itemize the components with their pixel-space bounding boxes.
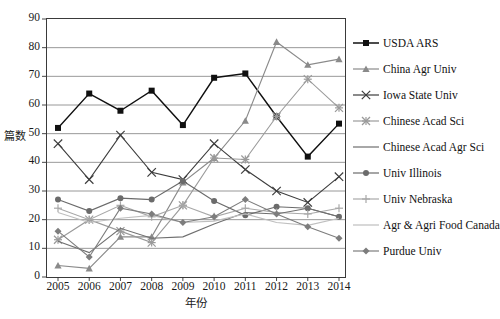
- legend-item-usda-ars[interactable]: USDA ARS: [352, 30, 484, 56]
- data-point-marker: [180, 178, 186, 184]
- legend-item-chinese-acad-sci[interactable]: Chinese Acad Sci: [352, 108, 484, 134]
- x-tick-2014: 2014: [319, 280, 359, 292]
- data-point-marker: [273, 210, 280, 217]
- data-point-marker: [335, 56, 342, 63]
- data-point-marker: [273, 112, 281, 120]
- data-point-marker: [148, 239, 156, 247]
- data-point-marker: [211, 198, 217, 204]
- data-point-marker: [210, 140, 218, 148]
- legend-item-iowa-state-univ[interactable]: Iowa State Univ: [352, 82, 484, 108]
- data-point-marker: [304, 75, 312, 83]
- data-point-marker: [55, 197, 61, 203]
- legend-label: Purdue Univ: [380, 245, 441, 257]
- series-china-agr-univ: [54, 38, 342, 271]
- data-point-marker: [180, 122, 186, 128]
- data-point-marker: [86, 208, 92, 214]
- data-point-marker: [211, 213, 218, 220]
- series-iowa-state-univ: [54, 131, 343, 207]
- data-point-marker: [210, 154, 218, 162]
- data-point-marker: [273, 38, 280, 45]
- legend-item-univ-illinois[interactable]: Univ Illinois: [352, 160, 484, 186]
- legend-marker-icon: [352, 218, 380, 232]
- legend-item-china-agr-univ[interactable]: China Agr Univ: [352, 56, 484, 82]
- x-axis-title: 年份: [156, 294, 236, 310]
- data-point-marker: [85, 175, 93, 183]
- data-point-marker: [336, 121, 342, 127]
- data-point-marker: [242, 196, 249, 203]
- data-point-marker: [336, 235, 343, 242]
- data-point-marker: [54, 204, 62, 212]
- data-point-marker: [147, 168, 155, 176]
- legend-marker-icon: [352, 140, 380, 154]
- data-point-marker: [116, 131, 124, 139]
- series-line: [58, 135, 339, 202]
- legend-item-chinese-acad-agr-sci[interactable]: Chinese Acad Agr Sci: [352, 134, 484, 160]
- legend-item-agr-agri-food-canada[interactable]: Agr & Agri Food Canada: [352, 212, 484, 238]
- legend-label: China Agr Univ: [380, 63, 456, 75]
- data-point-marker: [241, 155, 249, 163]
- series-purdue-univ: [55, 196, 343, 260]
- data-point-marker: [179, 219, 186, 226]
- legend-marker-icon: [352, 88, 380, 102]
- legend-label: Chinese Acad Sci: [380, 115, 464, 127]
- legend-label: Univ Nebraska: [380, 193, 452, 205]
- legend-marker-icon: [352, 62, 380, 76]
- series-line: [58, 42, 339, 268]
- series-usda-ars: [55, 70, 342, 159]
- data-point-marker: [335, 204, 343, 212]
- legend-item-univ-nebraska[interactable]: Univ Nebraska: [352, 186, 484, 212]
- data-point-marker: [362, 195, 370, 203]
- data-point-marker: [305, 154, 311, 160]
- legend-label: Chinese Acad Agr Sci: [380, 141, 484, 153]
- data-point-marker: [242, 70, 248, 76]
- data-point-marker: [149, 197, 155, 203]
- legend-label: USDA ARS: [380, 37, 438, 49]
- data-point-marker: [86, 91, 92, 97]
- series-univ-nebraska: [54, 201, 343, 223]
- chart-legend: USDA ARSChina Agr UnivIowa State UnivChi…: [352, 30, 484, 264]
- data-point-marker: [117, 108, 123, 114]
- legend-label: Univ Illinois: [380, 167, 441, 179]
- data-point-marker: [241, 204, 249, 212]
- data-point-marker: [55, 125, 61, 131]
- legend-marker-icon: [352, 166, 380, 180]
- data-point-marker: [242, 117, 249, 124]
- data-point-marker: [304, 210, 312, 218]
- series-line: [58, 73, 339, 156]
- data-point-marker: [149, 88, 155, 94]
- data-point-marker: [363, 40, 369, 46]
- legend-marker-icon: [352, 192, 380, 206]
- legend-marker-icon: [352, 114, 380, 128]
- legend-marker-icon: [352, 244, 380, 258]
- legend-marker-icon: [352, 36, 380, 50]
- legend-label: Agr & Agri Food Canada: [380, 219, 500, 231]
- data-point-marker: [241, 165, 249, 173]
- data-point-marker: [363, 170, 369, 176]
- legend-item-purdue-univ[interactable]: Purdue Univ: [352, 238, 484, 264]
- data-point-marker: [211, 75, 217, 81]
- data-point-marker: [335, 172, 343, 180]
- data-point-marker: [363, 248, 370, 255]
- legend-label: Iowa State Univ: [380, 89, 458, 101]
- data-point-marker: [54, 140, 62, 148]
- data-point-marker: [362, 117, 370, 125]
- data-point-marker: [117, 195, 123, 201]
- data-point-marker: [335, 104, 343, 112]
